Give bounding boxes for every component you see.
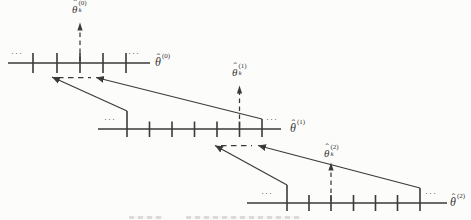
ellipsis-right-0: ··· (128, 49, 140, 58)
hat-accent: ˆ (325, 142, 330, 154)
refine-diagonal-right-0 (96, 78, 262, 120)
subscript: k (78, 7, 86, 14)
subscript: k (238, 70, 246, 77)
cropped-caption-remnant (186, 216, 302, 219)
hat-accent: ˆ (156, 51, 162, 64)
ellipsis-right-1: ··· (266, 115, 278, 124)
refinement-1-to-2 (215, 146, 420, 189)
figure-canvas: ··· ··· ··· ··· ··· ··· ˆθ(0)k ˆθ(0) ˆθ(… (0, 0, 471, 220)
refinement-0-to-1 (52, 77, 262, 119)
superscript: (0) (162, 53, 170, 60)
superscript: (2) (457, 193, 465, 200)
subscript: k (330, 151, 338, 158)
ellipsis-left-2: ··· (261, 189, 273, 198)
refine-diagonal-left-1 (215, 146, 287, 186)
theta-hat-1-axis-label: ˆθ(1) (290, 122, 305, 135)
ellipsis-right-2: ··· (425, 189, 437, 198)
ellipsis-left-0: ··· (11, 49, 23, 58)
cropped-caption-remnant (129, 216, 163, 219)
diagram-graphics (0, 0, 471, 220)
theta-hat-2-axis-label: ˆθ(2) (450, 196, 465, 209)
hat-accent: ˆ (233, 61, 238, 73)
hat-accent: ˆ (291, 117, 297, 130)
theta-hat-k-2-label: ˆθ(2)k (324, 147, 339, 159)
hat-accent: ˆ (451, 191, 457, 204)
refine-diagonal-right-1 (258, 146, 420, 189)
superscript: (1) (297, 119, 305, 126)
theta-hat-0-axis-label: ˆθ(0) (155, 56, 170, 69)
theta-hat-k-1-label: ˆθ(1)k (232, 66, 247, 78)
estimate-arrow-1-head (237, 86, 242, 94)
number-line-1 (98, 86, 281, 138)
ellipsis-left-1: ··· (104, 115, 116, 124)
theta-hat-k-0-label: ˆθ(0)k (72, 3, 87, 15)
hat-accent: ˆ (73, 0, 78, 10)
estimate-arrow-0-head (77, 23, 82, 31)
